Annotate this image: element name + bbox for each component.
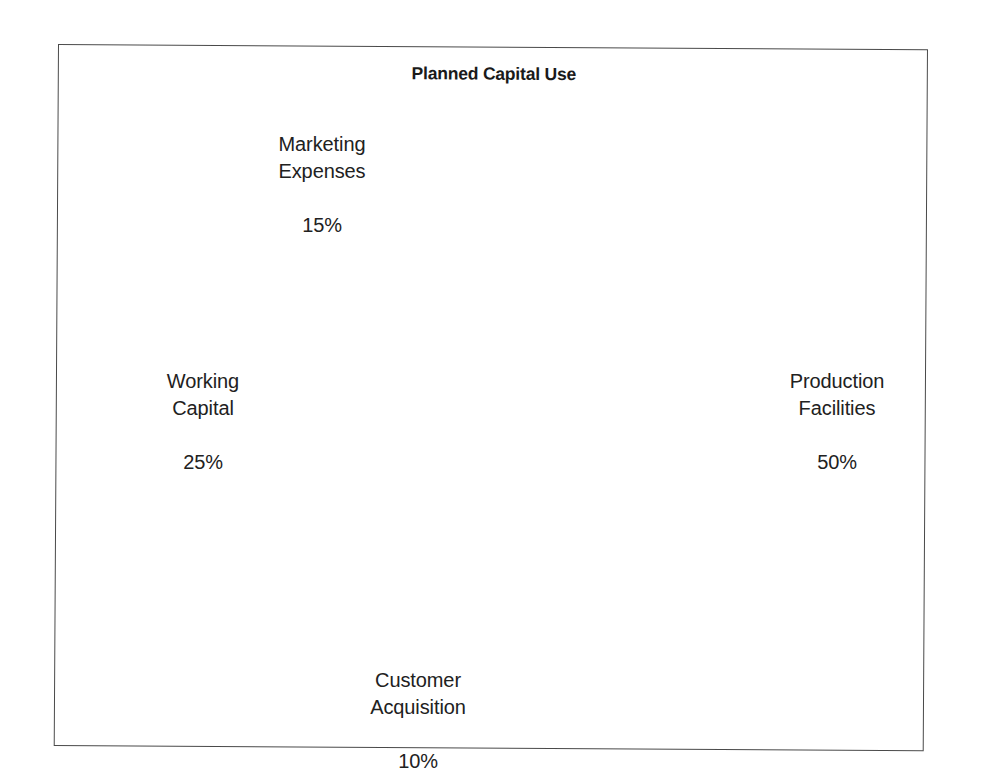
- slice-label-percent: 50%: [742, 449, 932, 476]
- slice-label-working-capital: Working Capital 25%: [118, 341, 288, 503]
- slice-label-name: Customer Acquisition: [320, 667, 516, 721]
- slice-label-percent: 25%: [118, 449, 288, 476]
- slice-label-customer-acquisition: Customer Acquisition 10%: [320, 640, 516, 778]
- slice-label-percent: 15%: [232, 212, 412, 239]
- chart-title: Planned Capital Use: [59, 61, 929, 87]
- slice-label-marketing-expenses: Marketing Expenses 15%: [232, 104, 412, 266]
- slice-label-production-facilities: Production Facilities 50%: [742, 341, 932, 503]
- slice-label-name: Production Facilities: [742, 368, 932, 422]
- slice-label-percent: 10%: [320, 748, 516, 775]
- slice-label-name: Marketing Expenses: [232, 131, 412, 185]
- chart-page: Planned Capital Use Marketing Expenses 1…: [0, 0, 984, 778]
- slice-label-name: Working Capital: [118, 368, 288, 422]
